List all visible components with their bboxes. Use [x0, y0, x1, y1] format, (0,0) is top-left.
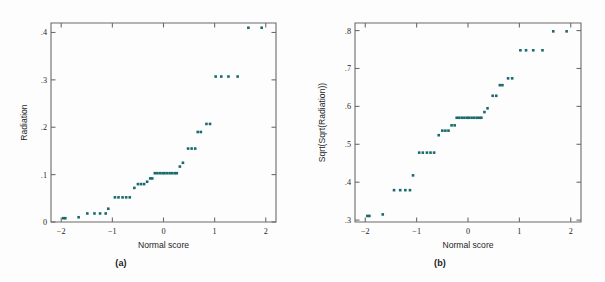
data-point: [146, 180, 149, 183]
data-point: [176, 172, 179, 175]
y-tick-label: .1: [41, 171, 47, 180]
data-point: [468, 116, 471, 119]
data-point: [220, 75, 223, 78]
data-point: [196, 131, 199, 134]
data-point: [475, 116, 478, 119]
x-tick-label: 0: [466, 227, 470, 236]
data-point: [444, 129, 447, 132]
data-point: [86, 212, 89, 215]
data-point: [205, 123, 208, 126]
data-point: [491, 94, 494, 97]
y-tick-label: .2: [41, 123, 47, 132]
data-point: [422, 151, 425, 154]
data-point: [154, 172, 157, 175]
data-point: [128, 196, 131, 199]
data-point: [121, 196, 124, 199]
data-point: [541, 49, 544, 52]
data-point: [426, 151, 429, 154]
scatter-plot-a: −2−10120.1.2.3.4Normal scoreRadiation: [0, 0, 302, 282]
data-point: [486, 107, 489, 110]
y-tick-label: .5: [345, 140, 351, 149]
data-point: [99, 212, 102, 215]
data-point: [525, 49, 528, 52]
y-tick-label: .4: [41, 28, 47, 37]
data-point: [159, 172, 162, 175]
data-point: [168, 172, 171, 175]
data-point: [156, 172, 159, 175]
data-point: [473, 116, 476, 119]
data-points: [62, 26, 263, 219]
data-point: [507, 77, 510, 80]
data-point: [194, 147, 197, 150]
y-tick-label: .3: [345, 216, 351, 225]
data-point: [151, 177, 154, 180]
y-tick-label: .4: [345, 178, 351, 187]
data-points: [366, 30, 568, 217]
data-point: [179, 165, 182, 168]
data-point: [480, 116, 483, 119]
data-point: [418, 151, 421, 154]
data-point: [137, 183, 140, 186]
data-point: [519, 49, 522, 52]
data-point: [104, 212, 107, 215]
data-point: [441, 129, 444, 132]
data-point: [412, 174, 415, 177]
data-point: [532, 49, 535, 52]
data-point: [565, 30, 568, 33]
x-tick-label: −1: [412, 227, 421, 236]
y-axis-title: Sqrt(Sqrt(Radiation)): [317, 83, 327, 162]
data-point: [453, 124, 456, 127]
data-point: [368, 215, 371, 218]
data-point: [200, 131, 203, 134]
scatter-plot-b: −2−1012.3.4.5.6.7.8Normal scoreSqrt(Sqrt…: [303, 0, 605, 282]
x-axis-title: Normal score: [442, 240, 493, 250]
data-point: [209, 123, 212, 126]
x-tick-label: −2: [57, 227, 66, 236]
data-point: [409, 189, 412, 192]
y-tick-label: .3: [41, 76, 47, 85]
data-point: [429, 151, 432, 154]
data-point: [163, 172, 166, 175]
data-point: [458, 116, 461, 119]
x-tick-label: 2: [264, 227, 268, 236]
data-point: [143, 183, 146, 186]
panel-a: −2−10120.1.2.3.4Normal scoreRadiation (a…: [0, 0, 302, 282]
data-point: [133, 187, 136, 190]
data-point: [552, 30, 555, 33]
data-point: [187, 147, 190, 150]
data-point: [140, 183, 143, 186]
data-point: [501, 84, 504, 87]
data-point: [125, 196, 128, 199]
data-point: [77, 216, 80, 219]
x-tick-label: 2: [569, 227, 573, 236]
data-point: [117, 196, 120, 199]
data-point: [171, 172, 174, 175]
data-point: [393, 189, 396, 192]
x-tick-label: −2: [361, 227, 370, 236]
data-point: [483, 111, 486, 114]
data-point: [227, 75, 230, 78]
data-point: [64, 217, 67, 220]
data-point: [114, 196, 117, 199]
data-point: [495, 94, 498, 97]
data-point: [404, 189, 407, 192]
data-point: [190, 147, 193, 150]
data-point: [437, 134, 440, 137]
x-tick-label: −1: [108, 227, 117, 236]
panel-b-subcaption: (b): [289, 258, 591, 268]
data-point: [93, 212, 96, 215]
data-point: [260, 26, 263, 29]
y-axis-title: Radiation: [19, 104, 29, 141]
data-point: [182, 161, 185, 164]
data-point: [107, 207, 110, 210]
panel-a-subcaption: (a): [0, 258, 272, 268]
y-tick-label: .7: [345, 64, 351, 73]
x-tick-label: 1: [517, 227, 521, 236]
x-tick-label: 1: [213, 227, 217, 236]
data-point: [399, 189, 402, 192]
data-point: [450, 124, 453, 127]
data-point: [381, 213, 384, 216]
data-point: [470, 116, 473, 119]
data-point: [455, 116, 458, 119]
data-point: [214, 75, 217, 78]
